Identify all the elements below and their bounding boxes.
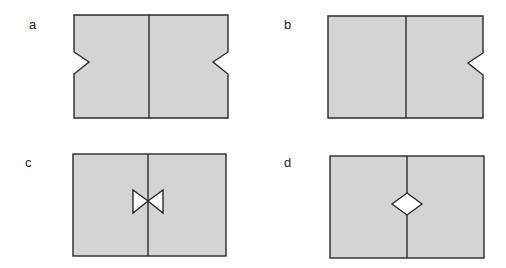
panel-d-shape — [330, 156, 484, 258]
diagram-canvas — [0, 0, 506, 268]
panel-c-shape — [73, 154, 226, 256]
panel-b-shape — [328, 16, 483, 118]
panel-a-shape — [74, 15, 228, 118]
